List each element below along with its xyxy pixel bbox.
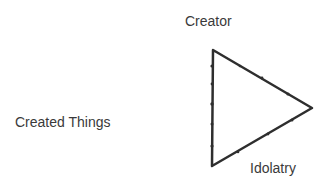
triangle-shape — [212, 50, 312, 166]
triangle-diagram — [0, 0, 331, 183]
hand-drawn-nodules — [210, 64, 293, 153]
